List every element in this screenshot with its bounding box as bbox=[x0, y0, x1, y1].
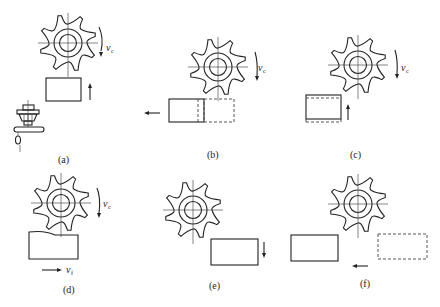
workpiece bbox=[29, 231, 78, 259]
panel-b: v c (b) bbox=[144, 37, 266, 161]
panel-label: (d) bbox=[63, 284, 75, 296]
rotation-arrow bbox=[255, 52, 257, 76]
arrowhead-icon bbox=[346, 104, 350, 109]
panel-a: v c (a) bbox=[14, 13, 114, 166]
panel-label: (b) bbox=[207, 149, 219, 161]
workpiece bbox=[169, 99, 204, 122]
panel-label: (e) bbox=[209, 280, 220, 292]
arrowhead-icon bbox=[255, 76, 259, 81]
arrowhead-icon bbox=[144, 111, 149, 115]
arrowhead-icon bbox=[395, 74, 399, 79]
workpiece-ghost bbox=[204, 99, 234, 122]
arrowhead-icon bbox=[57, 268, 62, 272]
milling-cutter bbox=[328, 174, 388, 238]
arrowhead-icon bbox=[97, 213, 101, 218]
milling-cutter bbox=[31, 173, 91, 237]
panel-label: (c) bbox=[350, 149, 361, 161]
panel-e: (e) bbox=[163, 180, 266, 292]
panel-label: (a) bbox=[58, 154, 69, 166]
milling-diagram: v c (a) v c (b) bbox=[0, 0, 440, 307]
milling-cutter bbox=[163, 180, 223, 244]
arrowhead-icon bbox=[88, 83, 92, 88]
rotation-arrow bbox=[99, 27, 102, 51]
panel-d: v c v f (d) bbox=[29, 173, 111, 296]
rotation-arrow bbox=[97, 188, 100, 213]
workpiece-ghost bbox=[378, 234, 427, 259]
milling-cutter bbox=[38, 13, 98, 77]
arrowhead-icon bbox=[99, 52, 103, 57]
workpiece bbox=[211, 239, 258, 265]
workpiece bbox=[291, 235, 338, 261]
panel-c: v c (c) bbox=[306, 35, 409, 161]
cutting-speed-subscript: c bbox=[111, 48, 114, 54]
panel-f: (f) bbox=[291, 174, 427, 290]
cutting-speed-subscript: c bbox=[406, 68, 409, 74]
rotation-arrow bbox=[395, 50, 397, 74]
panel-label: (f) bbox=[360, 278, 370, 290]
machine-handwheel-icon bbox=[14, 100, 44, 152]
cutting-speed-subscript: c bbox=[108, 204, 111, 210]
arrowhead-icon bbox=[352, 264, 357, 268]
milling-cutter bbox=[328, 35, 388, 99]
feed-speed-subscript: f bbox=[71, 270, 73, 276]
milling-cutter bbox=[188, 37, 248, 101]
arrowhead-icon bbox=[262, 253, 266, 258]
cutting-speed-subscript: c bbox=[263, 68, 266, 74]
workpiece bbox=[306, 95, 341, 119]
workpiece bbox=[46, 78, 81, 101]
